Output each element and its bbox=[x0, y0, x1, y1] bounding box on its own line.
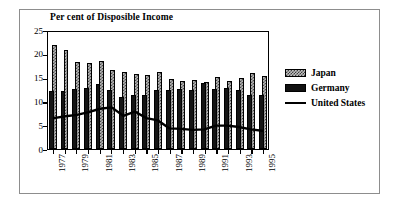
x-tick-label: 1981 bbox=[104, 154, 114, 172]
x-tick-label: 1991 bbox=[220, 154, 230, 172]
legend-label-united-states: United States bbox=[311, 98, 365, 108]
x-tick-label: 1977 bbox=[57, 154, 67, 172]
y-tick-label: 0 bbox=[27, 145, 43, 155]
bar-germany bbox=[224, 88, 229, 149]
bar-germany bbox=[166, 90, 171, 149]
bar-germany bbox=[107, 90, 112, 150]
x-tick-label: 1987 bbox=[174, 154, 184, 172]
y-tick-label: 25 bbox=[27, 26, 43, 36]
y-tick-label: 20 bbox=[27, 49, 43, 59]
legend-item-japan: Japan bbox=[285, 66, 385, 79]
bar-germany bbox=[236, 90, 241, 149]
x-axis-labels: 1977197919811983198519871989199119931995 bbox=[47, 154, 269, 196]
x-tick-label: 1995 bbox=[267, 154, 277, 172]
bars-layer bbox=[48, 32, 268, 149]
bar-germany bbox=[61, 91, 66, 149]
legend-label-germany: Germany bbox=[311, 83, 350, 93]
bar-germany bbox=[119, 97, 124, 149]
legend-label-japan: Japan bbox=[311, 68, 336, 78]
x-tick-label: 1985 bbox=[150, 154, 160, 172]
y-tick-label: 5 bbox=[27, 121, 43, 131]
bar-germany bbox=[212, 89, 217, 149]
bar-germany bbox=[131, 95, 136, 149]
plot-area bbox=[47, 31, 269, 150]
bar-germany bbox=[49, 91, 54, 149]
legend-item-germany: Germany bbox=[285, 81, 385, 94]
united-states-line-swatch bbox=[285, 102, 306, 104]
bar-germany bbox=[259, 95, 264, 149]
bar-germany bbox=[72, 89, 77, 149]
legend-item-united-states: United States bbox=[285, 96, 385, 109]
y-axis: 0510152025 bbox=[24, 31, 43, 150]
bar-germany bbox=[201, 83, 206, 149]
bar-germany bbox=[96, 84, 101, 149]
chart-figure: Per cent of Disposible Income 0510152025… bbox=[0, 0, 402, 207]
bar-germany bbox=[154, 90, 159, 149]
x-tick-label: 1993 bbox=[244, 154, 254, 172]
bar-germany bbox=[177, 89, 182, 149]
y-tick-label: 10 bbox=[27, 97, 43, 107]
chart-legend: Japan Germany United States bbox=[285, 66, 385, 111]
x-tick-label: 1979 bbox=[80, 154, 90, 172]
bar-germany bbox=[142, 95, 147, 149]
y-tick-label: 15 bbox=[27, 73, 43, 83]
germany-solid-swatch bbox=[285, 84, 306, 92]
bar-germany bbox=[247, 95, 252, 149]
bar-germany bbox=[189, 90, 194, 149]
x-tick-label: 1983 bbox=[127, 154, 137, 172]
x-tick-label: 1989 bbox=[197, 154, 207, 172]
japan-pattern-swatch bbox=[285, 69, 306, 77]
chart-title: Per cent of Disposible Income bbox=[50, 12, 173, 22]
bar-germany bbox=[84, 88, 89, 149]
